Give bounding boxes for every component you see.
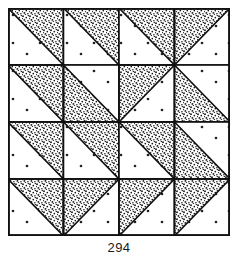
quilt-cell-r1c2 xyxy=(119,65,175,122)
quilt-cell-r2c3 xyxy=(175,122,231,179)
quilt-cell-r3c3 xyxy=(175,179,231,236)
quilt-block-diagram xyxy=(8,8,230,236)
quilt-block-svg xyxy=(8,8,230,236)
quilt-cells xyxy=(8,8,230,236)
quilt-cell-r0c3 xyxy=(175,8,231,65)
quilt-cell-r0c1 xyxy=(64,8,120,65)
quilt-cell-r2c0 xyxy=(8,122,64,179)
quilt-cell-r1c1 xyxy=(64,65,120,122)
quilt-cell-r1c3 xyxy=(175,65,231,122)
quilt-cell-r1c0 xyxy=(8,65,64,122)
quilt-cell-r3c0 xyxy=(8,179,64,236)
quilt-cell-r2c2 xyxy=(119,122,175,179)
quilt-cell-r0c0 xyxy=(8,8,64,65)
quilt-figure: 294 xyxy=(0,0,238,261)
quilt-cell-r0c2 xyxy=(119,8,175,65)
quilt-cell-r3c1 xyxy=(64,179,120,236)
figure-caption: 294 xyxy=(0,240,238,255)
quilt-cell-r3c2 xyxy=(119,179,175,236)
quilt-cell-r2c1 xyxy=(64,122,120,179)
